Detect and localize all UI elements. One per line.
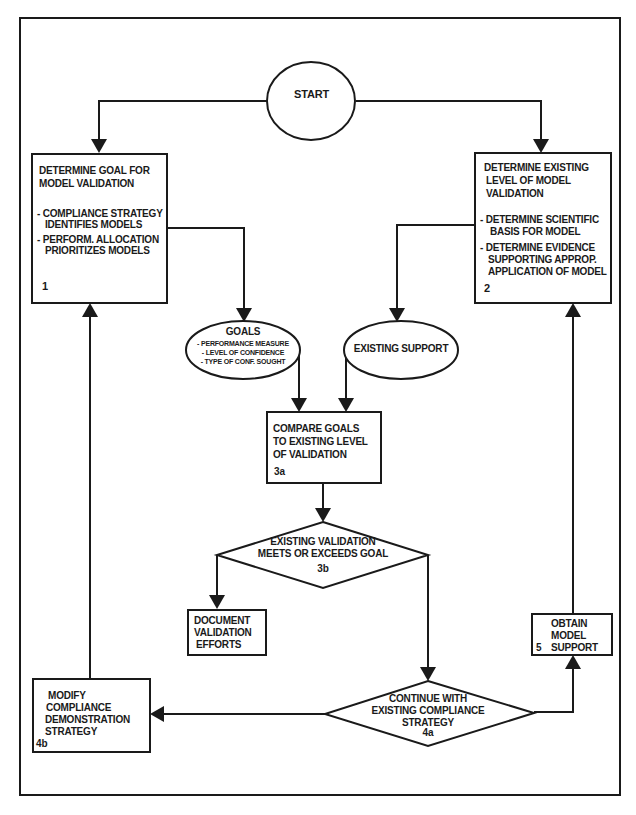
- decision-4a-line: EXISTING COMPLIANCE: [360, 705, 496, 717]
- box-3a-line: OF VALIDATION: [273, 449, 347, 461]
- box-4b-line: COMPLIANCE: [46, 702, 111, 714]
- box-1-title-line: MODEL VALIDATION: [39, 178, 134, 190]
- box-3a-line: COMPARE GOALS: [273, 423, 359, 435]
- box-4b-modify-compliance: MODIFY COMPLIANCE DEMONSTRATION STRATEGY…: [32, 678, 151, 753]
- arrow-down-icon: [315, 508, 331, 522]
- decision-3b-line: EXISTING VALIDATION: [240, 536, 406, 548]
- arrow-down-icon: [209, 595, 225, 609]
- box-5-line: SUPPORT: [551, 642, 598, 654]
- goals-node: GOALS - PERFORMANCE MEASURE - LEVEL OF C…: [186, 326, 300, 376]
- arrow-left-icon: [150, 706, 164, 722]
- box-3a-compare-goals: COMPARE GOALS TO EXISTING LEVEL OF VALID…: [266, 411, 382, 484]
- box-2-title-line: VALIDATION: [486, 188, 544, 200]
- goals-item: - LEVEL OF CONFIDENCE: [186, 348, 300, 357]
- arrow-down-icon: [338, 398, 354, 412]
- box-2-bullet: - DETERMINE SCIENTIFIC: [480, 214, 599, 226]
- goals-item: - PERFORMANCE MEASURE: [186, 339, 300, 348]
- box-4b-line: DEMONSTRATION: [45, 714, 130, 726]
- existing-support-label: EXISTING SUPPORT: [344, 343, 458, 355]
- decision-4a-id: 4a: [360, 727, 496, 738]
- arrow-down-icon: [291, 398, 307, 412]
- document-box-line: VALIDATION: [194, 627, 252, 639]
- start-label: START: [267, 88, 356, 100]
- box-document-validation-efforts: DOCUMENT VALIDATION EFFORTS: [187, 609, 267, 656]
- arrow-down-icon: [236, 308, 252, 322]
- start-node-shape: [267, 62, 355, 140]
- box-3a-id: 3a: [274, 466, 285, 477]
- box-1-id: 1: [42, 280, 48, 292]
- box-2-id: 2: [484, 282, 490, 294]
- decision-4a-line: CONTINUE WITH: [360, 693, 496, 705]
- connector-start-to-box1: [99, 101, 267, 140]
- box-2-bullet: - DETERMINE EVIDENCE: [480, 242, 595, 254]
- box-4b-line: STRATEGY: [45, 726, 97, 738]
- box-1-determine-goal: DETERMINE GOAL FOR MODEL VALIDATION - CO…: [31, 153, 168, 304]
- document-box-line: DOCUMENT: [194, 615, 250, 627]
- box-3a-line: TO EXISTING LEVEL: [273, 436, 368, 448]
- goals-title: GOALS: [186, 326, 300, 338]
- document-box-line: EFFORTS: [196, 639, 241, 651]
- box-5-id: 5: [536, 642, 542, 653]
- arrow-down-icon: [420, 667, 436, 681]
- arrow-down-icon: [533, 139, 549, 153]
- goals-item: - TYPE OF CONF. SOUGHT: [186, 357, 300, 366]
- box-1-bullet: IDENTIFIES MODELS: [45, 219, 142, 231]
- decision-3b-id: 3b: [240, 563, 406, 574]
- box-2-title-line: DETERMINE EXISTING: [484, 162, 589, 174]
- box-1-title-line: DETERMINE GOAL FOR: [39, 165, 150, 177]
- arrow-down-icon: [389, 308, 405, 322]
- box-2-title-line: LEVEL OF MODEL: [486, 175, 571, 187]
- arrow-up-icon: [82, 303, 98, 317]
- box-2-bullet: APPLICATION OF MODEL: [488, 266, 607, 278]
- connector-box1-to-goals: [167, 228, 244, 310]
- box-2-bullet: SUPPORTING APPROP.: [488, 254, 597, 266]
- arrow-down-icon: [91, 139, 107, 153]
- connector-box2-to-support: [397, 225, 474, 310]
- box-2-determine-existing-level: DETERMINE EXISTING LEVEL OF MODEL VALIDA…: [474, 152, 612, 304]
- connector-4a-to-5: [534, 667, 573, 712]
- connector-start-to-box2: [356, 101, 541, 140]
- box-4b-line: MODIFY: [48, 690, 86, 702]
- box-5-line: MODEL: [551, 630, 586, 642]
- box-2-bullet: BASIS FOR MODEL: [490, 226, 580, 238]
- box-5-line: OBTAIN: [551, 618, 587, 630]
- box-1-bullet: PRIORITIZES MODELS: [45, 245, 150, 257]
- box-5-obtain-model-support: OBTAIN MODEL SUPPORT 5: [531, 613, 613, 656]
- arrow-up-icon: [565, 655, 581, 669]
- box-4b-id: 4b: [36, 738, 48, 749]
- arrow-up-icon: [565, 303, 581, 317]
- decision-3b-line: MEETS OR EXCEEDS GOAL: [240, 548, 406, 560]
